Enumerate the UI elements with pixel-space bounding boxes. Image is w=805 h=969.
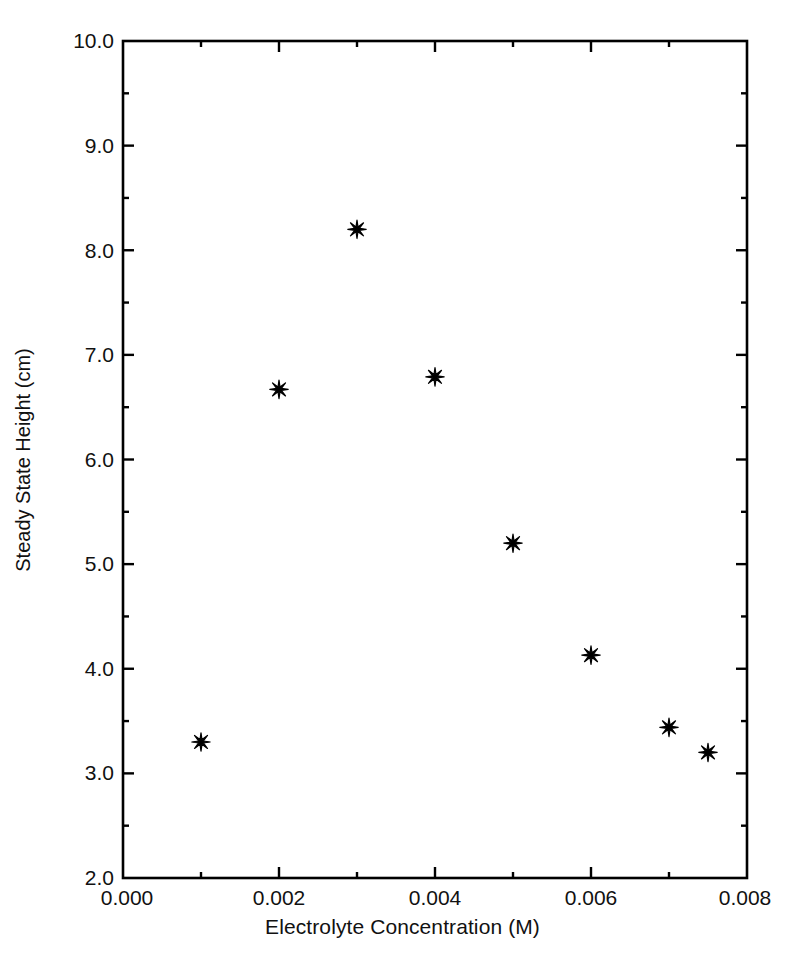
data-point-marker	[426, 368, 444, 386]
plot-canvas	[0, 0, 805, 969]
axes-frame	[123, 41, 747, 878]
data-point-marker	[270, 380, 288, 398]
asterisk-icon	[426, 368, 444, 386]
data-point-marker	[699, 743, 717, 761]
data-point-marker	[192, 733, 210, 751]
asterisk-icon	[582, 646, 600, 664]
data-markers	[192, 220, 717, 762]
asterisk-icon	[660, 718, 678, 736]
asterisk-icon	[699, 743, 717, 761]
asterisk-icon	[348, 220, 366, 238]
data-point-marker	[504, 534, 522, 552]
asterisk-icon	[192, 733, 210, 751]
data-point-marker	[660, 718, 678, 736]
scatter-plot-figure: 10.0 9.0 8.0 7.0 6.0 5.0 4.0 3.0 2.0 0.0…	[0, 0, 805, 969]
axis-ticks	[123, 41, 747, 878]
data-point-marker	[348, 220, 366, 238]
axes-box	[123, 41, 747, 878]
asterisk-icon	[504, 534, 522, 552]
data-point-marker	[582, 646, 600, 664]
asterisk-icon	[270, 380, 288, 398]
